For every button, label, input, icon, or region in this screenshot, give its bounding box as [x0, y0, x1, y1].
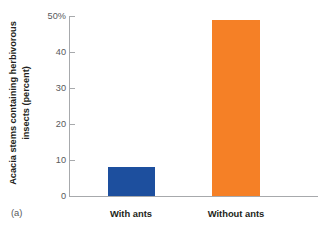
y-tick-label-40: 40 [38, 47, 66, 57]
y-axis-title-line-1: Acacia stems containing herbivorous [8, 21, 18, 185]
y-tick-label-10: 10 [38, 155, 66, 165]
y-tick-mark-50 [70, 16, 75, 17]
y-tick-mark-10 [70, 160, 75, 161]
x-axis-spine [69, 196, 318, 197]
y-tick-label-50: 50% [38, 11, 66, 21]
y-axis-title-line-2: insects (percent) [19, 21, 32, 185]
y-tick-label-20: 20 [38, 119, 66, 129]
category-label-with-ants: With ants [110, 208, 152, 219]
panel-label: (a) [11, 207, 22, 218]
y-tick-label-30: 30 [38, 83, 66, 93]
y-axis-title-text: Acacia stems containing herbivorous inse… [7, 21, 32, 185]
y-tick-mark-0 [70, 196, 75, 197]
bar-with-ants [108, 167, 155, 196]
y-axis-title: Acacia stems containing herbivorous inse… [2, 8, 36, 198]
y-tick-mark-20 [70, 124, 75, 125]
y-tick-label-0: 0 [38, 191, 66, 201]
x-axis-category-labels: With ants Without ants [70, 208, 318, 224]
bar-chart-figure: Acacia stems containing herbivorous inse… [0, 0, 325, 236]
bar-without-ants [212, 20, 260, 196]
y-tick-mark-40 [70, 52, 75, 53]
plot-area [70, 16, 318, 196]
y-tick-mark-30 [70, 88, 75, 89]
y-axis-tick-labels: 01020304050% [38, 0, 66, 236]
category-label-without-ants: Without ants [208, 208, 265, 219]
